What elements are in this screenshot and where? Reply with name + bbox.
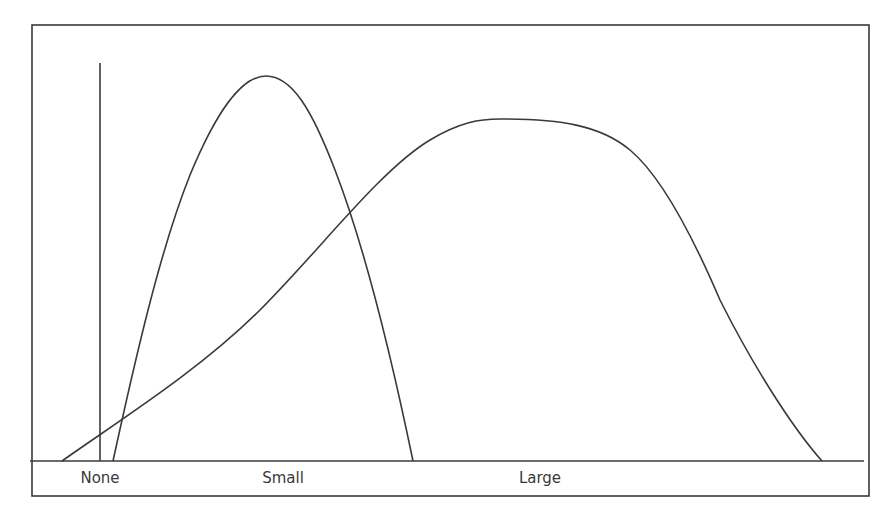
label-large: Large [519,469,561,487]
figure-frame [32,25,869,496]
large-distribution-curve [62,119,822,461]
label-small: Small [262,469,304,487]
label-none: None [80,469,119,487]
small-distribution-curve [113,76,413,461]
distribution-diagram: None Small Large [0,0,896,523]
